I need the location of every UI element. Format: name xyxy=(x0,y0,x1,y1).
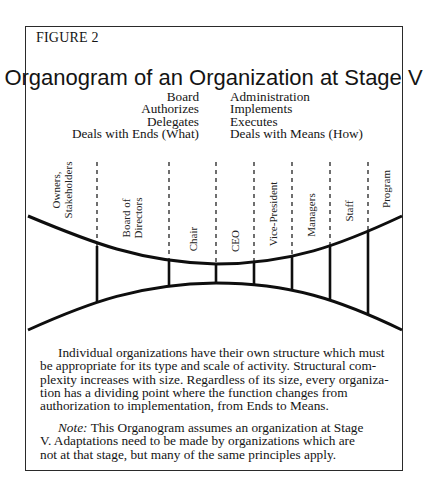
segment-label-staff: Staff xyxy=(343,200,355,222)
paragraph-line: plexity increases with size. Regardless … xyxy=(40,373,390,386)
note-line: not at that stage, but many of the same … xyxy=(40,448,390,461)
paragraph-line: authorization to implementation, from En… xyxy=(40,399,390,412)
paragraph-line: Individual organizations have their own … xyxy=(40,346,390,359)
segment-label-owners: Owners, xyxy=(50,171,62,208)
segment-label-board-of: Board of xyxy=(120,198,132,237)
segment-label-managers: Managers xyxy=(305,193,317,236)
paragraph-line: be appropriate for its type and scale of… xyxy=(40,359,390,372)
segment-label-vice-president: Vice-President xyxy=(267,182,279,247)
note-first-line: Note: This Organogram assumes an organiz… xyxy=(40,421,390,434)
description-paragraph: Individual organizations have their own … xyxy=(40,346,390,412)
note-line: V. Adaptations need to be made by organi… xyxy=(40,434,390,447)
segment-label-stakeholders: Stakeholders xyxy=(62,162,74,219)
lower-curve xyxy=(28,283,402,330)
segment-label-directors: Directors xyxy=(132,198,144,239)
segment-label-program: Program xyxy=(380,170,392,208)
note-paragraph: Note: This Organogram assumes an organiz… xyxy=(40,421,390,461)
segment-label-ceo: CEO xyxy=(229,230,241,252)
upper-curve xyxy=(28,216,402,264)
paragraph-line: tion has a dividing point where the func… xyxy=(40,386,390,399)
segment-label-chair: Chair xyxy=(187,226,199,251)
